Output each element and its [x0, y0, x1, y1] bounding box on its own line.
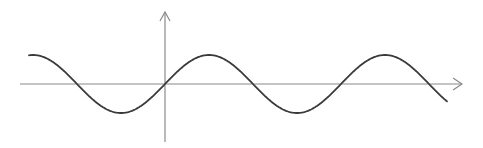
sine-wave-chart: [0, 0, 483, 148]
